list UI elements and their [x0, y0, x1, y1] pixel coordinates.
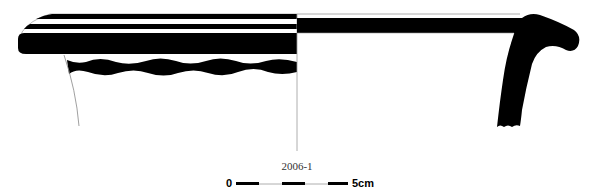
painted-band-lip: [18, 33, 297, 54]
interior-band: [297, 18, 523, 33]
painted-band-top: [36, 14, 297, 19]
exterior-view: [18, 14, 297, 126]
scale-segment: [236, 182, 259, 185]
scale-end-label: 5cm: [352, 177, 374, 189]
section-view: [297, 14, 579, 127]
painted-band-wavy: [67, 59, 297, 76]
scale-bar: 0 5cm: [226, 177, 374, 189]
scale-segment: [328, 182, 348, 185]
pottery-drawing: 2006-1 0 5cm: [0, 0, 594, 196]
scale-segment: [282, 182, 305, 185]
painted-band-middle: [24, 24, 297, 29]
scale-start-label: 0: [226, 177, 232, 189]
catalog-number: 2006-1: [281, 160, 312, 172]
